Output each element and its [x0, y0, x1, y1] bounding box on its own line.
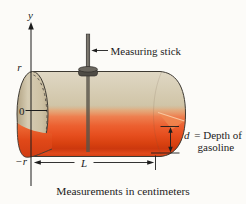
- depth-label-line2: gasoline: [198, 141, 235, 153]
- depth-text: = Depth of: [194, 129, 242, 141]
- gasoline-band: [30, 105, 187, 158]
- depth-label: d = Depth of: [184, 129, 242, 141]
- tank-diagram-canvas: y r 0 −r Measuring stick d = Depth of ga…: [0, 0, 246, 204]
- leader-arrow: [91, 49, 97, 53]
- depth-symbol: d: [184, 129, 190, 141]
- gas-tank-figure: y r 0 −r Measuring stick d = Depth of ga…: [0, 0, 246, 204]
- axis-tick-neg-r: −r: [15, 155, 27, 167]
- axis-tick-r: r: [17, 61, 22, 73]
- measuring-stick-label: Measuring stick: [111, 45, 182, 57]
- axis-label-y: y: [27, 9, 33, 21]
- y-axis-arrow: [28, 22, 34, 30]
- figure-caption: Measurements in centimeters: [56, 185, 190, 197]
- measuring-stick-rod-inside: [86, 75, 90, 152]
- measuring-stick-rod: [86, 34, 90, 71]
- length-right-arrow: [147, 160, 154, 164]
- axis-tick-0: 0: [19, 105, 25, 117]
- length-label: L: [80, 157, 87, 169]
- length-left-arrow: [34, 160, 41, 164]
- measuring-stick-cap-top: [79, 67, 98, 73]
